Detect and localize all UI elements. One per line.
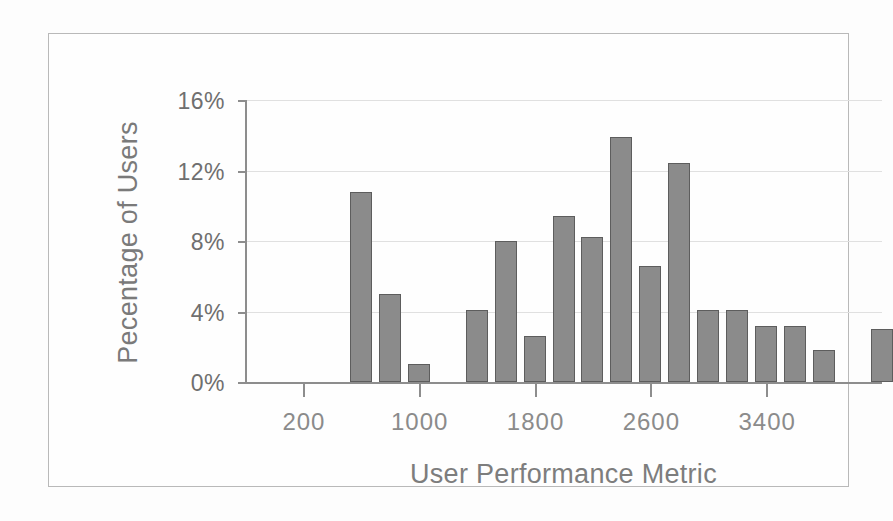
x-axis-title: User Performance Metric: [245, 459, 882, 490]
y-axis-line: [245, 100, 247, 384]
bar: [871, 329, 893, 382]
x-axis-tick: [766, 384, 768, 397]
bar: [668, 163, 690, 382]
bar: [784, 326, 806, 382]
x-axis-title-label: User Performance Metric: [410, 459, 717, 489]
y-axis-tick-label: 8%: [191, 229, 225, 256]
y-axis-title: Pecentage of Users: [111, 100, 145, 384]
bar: [581, 237, 603, 382]
x-axis-tick-label: 1800: [507, 408, 564, 436]
x-axis-tick-label: 3400: [738, 408, 795, 436]
bar: [813, 350, 835, 382]
y-axis-tick-label: 16%: [177, 88, 225, 115]
bar: [495, 241, 517, 382]
y-axis-tick-label: 4%: [191, 299, 225, 326]
x-axis-tick-label: 2600: [623, 408, 680, 436]
y-axis-tick-label: 0%: [191, 370, 225, 397]
bar: [610, 137, 632, 382]
x-axis-tick: [303, 384, 305, 397]
x-axis-tick-label: 200: [282, 408, 325, 436]
y-axis-tick-label: 12%: [177, 158, 225, 185]
bar: [553, 216, 575, 382]
plot-area: 0%4%8%12%16% 2001000180026003400: [245, 100, 882, 384]
x-axis-tick-label: 1000: [391, 408, 448, 436]
bar: [524, 336, 546, 382]
bar: [408, 364, 430, 382]
bar: [466, 310, 488, 382]
bar: [350, 192, 372, 382]
gridline: [245, 100, 882, 101]
x-axis-line: [245, 382, 882, 384]
x-axis-tick: [535, 384, 537, 397]
gridline: [245, 171, 882, 172]
y-axis-title-label: Pecentage of Users: [113, 121, 144, 364]
chart-frame: Pecentage of Users 0%4%8%12%16% 20010001…: [48, 33, 849, 487]
bar: [379, 294, 401, 382]
bar: [639, 266, 661, 382]
bar: [697, 310, 719, 382]
x-axis-tick: [419, 384, 421, 397]
x-axis-tick: [650, 384, 652, 397]
bar: [755, 326, 777, 382]
bar: [726, 310, 748, 382]
